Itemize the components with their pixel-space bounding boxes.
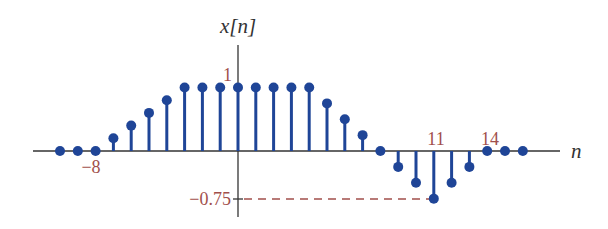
- stem-marker: [144, 108, 154, 118]
- stem-marker: [411, 178, 421, 188]
- y-axis-label: x[n]: [219, 14, 256, 38]
- stem-marker: [447, 178, 457, 188]
- stem-marker: [197, 83, 207, 93]
- tick-label-neg8: −8: [81, 157, 100, 177]
- stem-marker: [73, 146, 83, 156]
- stem-marker: [500, 146, 510, 156]
- stem-marker: [233, 83, 243, 93]
- stem-marker: [126, 121, 136, 131]
- stem-marker: [162, 95, 172, 105]
- x-axis-label: n: [571, 139, 582, 163]
- stem-plot: x[n] n 1 −0.75 −8 11 14: [0, 0, 608, 229]
- stem-marker: [429, 194, 439, 204]
- stem-marker: [269, 83, 279, 93]
- stem-marker: [304, 83, 314, 93]
- stem-marker: [322, 98, 332, 108]
- stem-marker: [286, 83, 296, 93]
- tick-label-11: 11: [427, 129, 444, 149]
- stem-marker: [340, 114, 350, 124]
- stem-marker: [91, 146, 101, 156]
- stem-marker: [393, 162, 403, 172]
- tick-label-one: 1: [223, 65, 232, 85]
- stem-marker: [108, 133, 118, 143]
- stem-marker: [518, 146, 528, 156]
- stem-marker: [358, 130, 368, 140]
- stem-marker: [251, 83, 261, 93]
- stem-marker: [464, 162, 474, 172]
- tick-label-neg075: −0.75: [189, 189, 231, 209]
- stem-marker: [55, 146, 65, 156]
- stem-marker: [180, 83, 190, 93]
- tick-label-14: 14: [481, 129, 499, 149]
- stems: [55, 83, 528, 204]
- stem-marker: [375, 146, 385, 156]
